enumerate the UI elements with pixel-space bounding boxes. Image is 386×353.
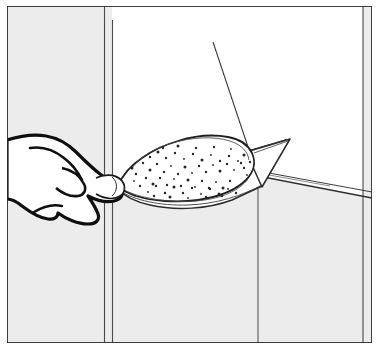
stipple-dot [191, 187, 193, 189]
stipple-dot [243, 154, 246, 157]
stipple-dot [246, 174, 248, 176]
stipple-dot [230, 148, 232, 150]
stipple-dot [215, 181, 217, 183]
stipple-dot [200, 193, 202, 195]
stipple-dot [162, 147, 164, 149]
stipple-dot [173, 186, 176, 189]
stipple-dot [135, 173, 137, 175]
stipple-dot [149, 169, 152, 172]
stipple-dot [229, 180, 231, 182]
stipple-dot [165, 157, 167, 159]
stipple-dot [149, 156, 151, 158]
stipple-dot [191, 172, 193, 174]
stipple-dot [139, 185, 141, 187]
stipple-dot [182, 192, 184, 194]
stipple-dot [187, 179, 190, 182]
stipple-dot [219, 170, 222, 173]
stipple-dot [194, 186, 196, 188]
stipple-dot [233, 169, 235, 171]
stipple-dot [201, 159, 204, 162]
illustration-canvas [0, 0, 386, 353]
stipple-dot [249, 161, 251, 163]
stipple-dot [205, 196, 207, 198]
stipple-dot [174, 152, 176, 154]
stipple-dot [177, 145, 180, 148]
stipple-dot [163, 171, 165, 173]
stipple-dot [221, 195, 223, 197]
stipple-dot [210, 154, 212, 156]
stipple-dot [240, 162, 242, 164]
stipple-dot [187, 197, 189, 199]
stipple-dot [142, 162, 144, 164]
stipple-dot [147, 191, 149, 193]
stipple-dot [195, 147, 197, 149]
stipple-dot [131, 167, 134, 170]
stipple-dot [155, 185, 157, 187]
stipple-dot [198, 165, 200, 167]
wall-panel-right [363, 6, 372, 200]
stipple-dot [164, 192, 166, 194]
stipple-dot [236, 186, 238, 188]
stipple-dot [228, 155, 230, 157]
illustration-figure: Applying plaster compound to a wall corn… [0, 0, 386, 353]
stipple-dot [166, 184, 168, 186]
stipple-dot [209, 188, 211, 190]
stipple-dot [159, 177, 161, 179]
stipple-dot [218, 193, 221, 196]
stipple-dot [205, 171, 207, 173]
stipple-dot [145, 177, 147, 179]
stipple-dot [212, 164, 214, 166]
stipple-dot [226, 163, 228, 165]
stipple-dot [235, 192, 237, 194]
stipple-dot [153, 195, 155, 197]
stipple-dot [192, 153, 194, 155]
stipple-dot [237, 160, 239, 162]
stipple-dot [243, 167, 245, 169]
stipple-dot [169, 196, 172, 199]
stipple-dot [157, 151, 160, 154]
stipple-dot [201, 180, 203, 182]
stipple-dot [173, 178, 175, 180]
stipple-dot [133, 180, 135, 182]
stipple-dot [227, 188, 229, 190]
stipple-dot [170, 165, 172, 167]
stipple-dot [219, 160, 221, 162]
stipple-dot [177, 173, 179, 175]
trowel-handle [96, 175, 125, 198]
stipple-dot [156, 163, 158, 165]
stipple-dot [213, 146, 215, 148]
stipple-dot [184, 166, 187, 169]
stipple-dot [180, 185, 182, 187]
stipple-dot [222, 187, 225, 190]
stipple-dot [152, 183, 155, 186]
stipple-dot [183, 158, 185, 160]
